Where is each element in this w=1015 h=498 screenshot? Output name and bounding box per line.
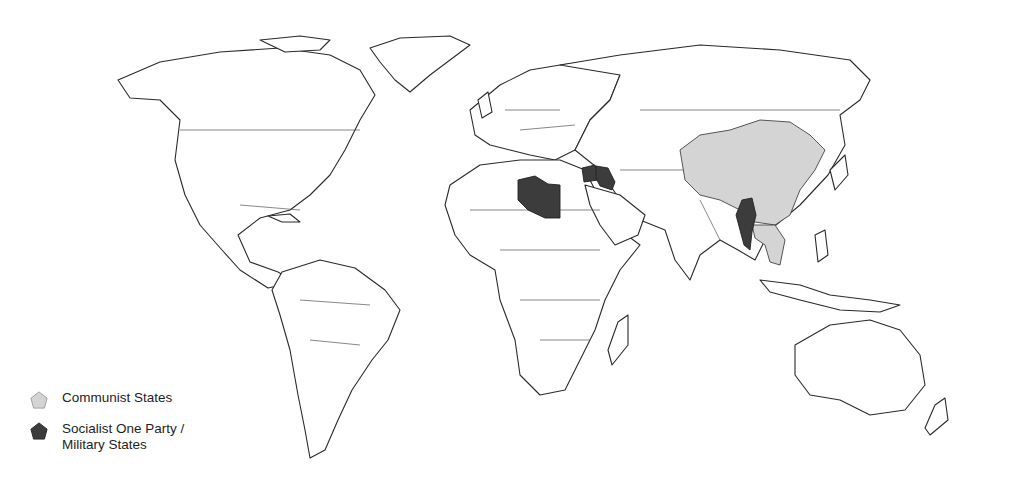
- legend-label-communist: Communist States: [62, 390, 172, 406]
- pentagon-swatch-icon: [30, 422, 48, 440]
- legend-item-communist: Communist States: [30, 390, 184, 409]
- legend-label-socialist-military: Socialist One Party / Military States: [62, 421, 184, 453]
- indonesia: [760, 280, 900, 312]
- greenland: [370, 36, 470, 92]
- madagascar: [608, 315, 628, 365]
- philippines: [815, 230, 828, 262]
- legend-label-line1: Socialist One Party /: [62, 421, 184, 436]
- new-zealand: [925, 398, 948, 435]
- cuba: [268, 214, 300, 222]
- north-america: [118, 48, 375, 288]
- legend-item-socialist-military: Socialist One Party / Military States: [30, 421, 184, 453]
- legend-label-line2: Military States: [62, 437, 147, 452]
- australia: [795, 320, 925, 415]
- south-america: [272, 260, 400, 458]
- pentagon-swatch-icon: [30, 391, 48, 409]
- map-legend: Communist States Socialist One Party / M…: [30, 390, 184, 465]
